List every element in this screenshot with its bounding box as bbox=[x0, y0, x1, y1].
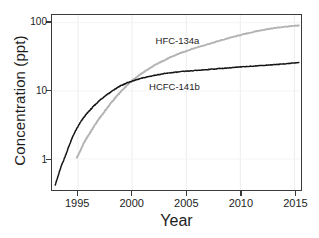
x-tick-label: 2000 bbox=[109, 197, 155, 209]
x-tick-mark bbox=[77, 191, 78, 196]
y-tick-label: 100 bbox=[16, 16, 47, 27]
x-tick-label: 1995 bbox=[54, 197, 100, 209]
x-tick-mark bbox=[131, 191, 132, 196]
series-annotation-hfc-134a: HFC-134a bbox=[156, 35, 200, 46]
x-tick-mark bbox=[186, 191, 187, 196]
x-tick-label: 2010 bbox=[218, 197, 264, 209]
y-tick-label: 1 bbox=[16, 154, 47, 165]
x-tick-mark bbox=[240, 191, 241, 196]
x-tick-mark bbox=[295, 191, 296, 196]
chart-figure: Concentration (ppt) Year 110100199520002… bbox=[0, 0, 319, 238]
series-annotation-hcfc-141b: HCFC-141b bbox=[149, 81, 200, 92]
x-tick-label: 2005 bbox=[163, 197, 209, 209]
x-axis-title: Year bbox=[51, 212, 302, 230]
y-tick-label: 10 bbox=[16, 85, 47, 96]
x-tick-label: 2015 bbox=[272, 197, 318, 209]
